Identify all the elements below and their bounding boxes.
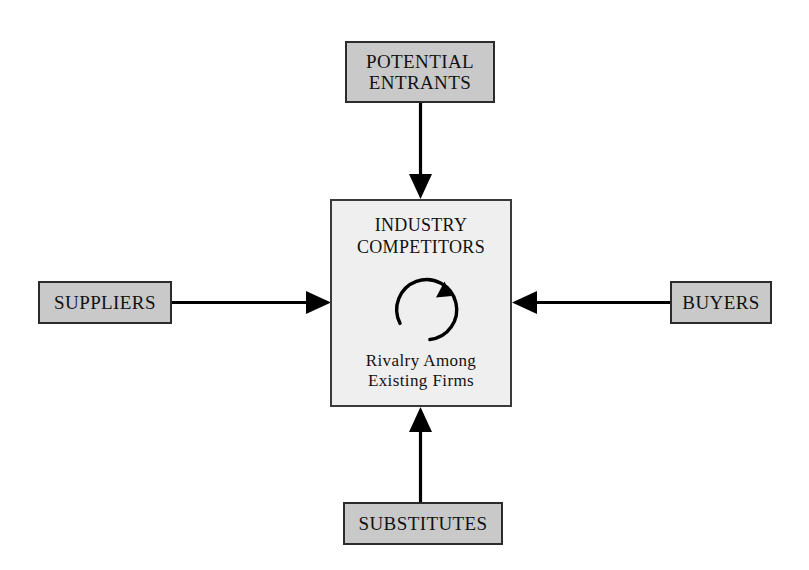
force-label-potential-entrants: POTENTIAL ENTRANTS	[366, 51, 474, 94]
arrow-left-from-buyers	[512, 291, 670, 314]
industry-competitors-title: INDUSTRY COMPETITORS	[332, 215, 510, 258]
force-box-buyers[interactable]: BUYERS	[670, 281, 772, 324]
force-box-potential-entrants[interactable]: POTENTIAL ENTRANTS	[345, 41, 495, 103]
force-label-suppliers: SUPPLIERS	[54, 292, 156, 313]
force-label-substitutes: SUBSTITUTES	[359, 513, 488, 534]
arrow-up-from-substitutes	[409, 407, 432, 502]
force-box-suppliers[interactable]: SUPPLIERS	[38, 281, 172, 324]
arrow-down-from-potential-entrants	[409, 103, 432, 199]
force-label-buyers: BUYERS	[682, 292, 759, 313]
force-box-substitutes[interactable]: SUBSTITUTES	[343, 502, 503, 545]
diagram-canvas: POTENTIAL ENTRANTS SUPPLIERS BUYERS SUBS…	[0, 0, 809, 570]
rivalry-caption: Rivalry Among Existing Firms	[332, 351, 510, 392]
rivalry-circle-container	[332, 271, 510, 349]
circular-arrow-clockwise-icon	[381, 271, 461, 349]
arrow-right-from-suppliers	[172, 291, 331, 314]
force-box-industry-competitors[interactable]: INDUSTRY COMPETITORS Rivalry Among Exist…	[330, 199, 512, 407]
